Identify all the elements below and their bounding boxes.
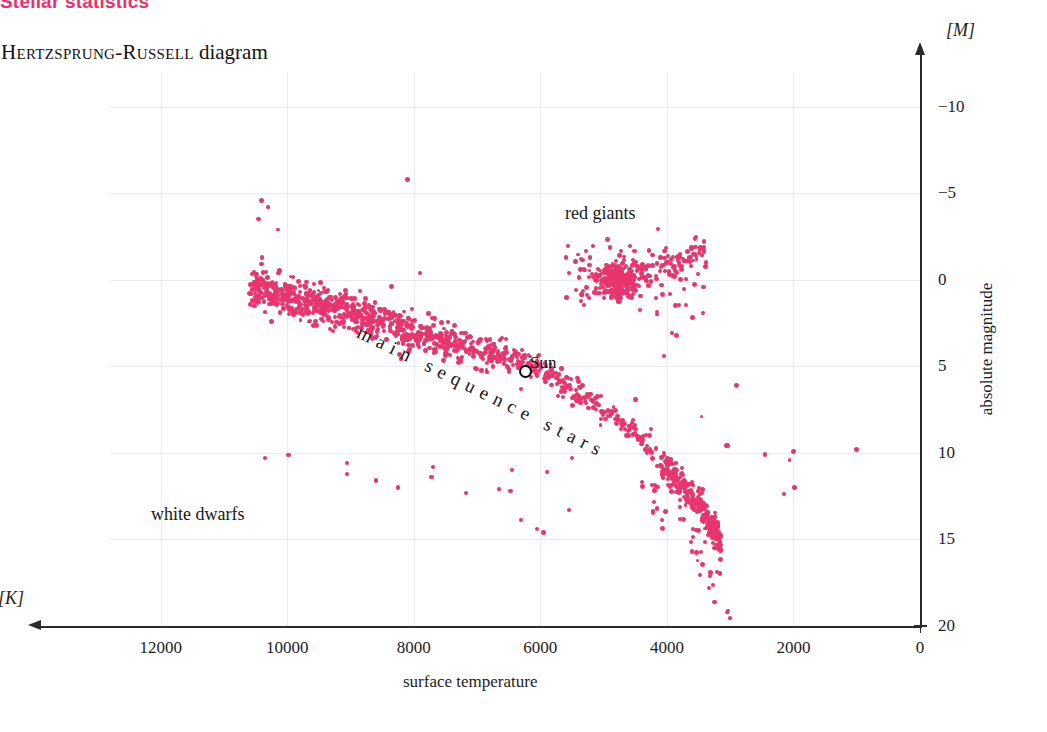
x-axis-arrow-icon (28, 620, 41, 630)
plot-area: 120001000080006000400020000−10−505101520… (110, 72, 920, 626)
x-tick-label: 2000 (776, 638, 810, 658)
y-axis-unit: [M] (946, 20, 975, 41)
x-tick-label: 10000 (266, 638, 309, 658)
y-tick-label: 15 (938, 529, 955, 549)
x-axis-unit-text: [K] (0, 588, 24, 608)
figure-canvas: Stellar statistics Hertzsprung-Russell d… (0, 0, 1047, 732)
figure-title-rest: diagram (199, 40, 268, 64)
x-axis-title: surface temperature (403, 672, 538, 692)
x-axis-line (40, 626, 922, 628)
y-axis-line (920, 54, 922, 626)
x-tick-label: 0 (916, 638, 925, 658)
annotation-white-dwarfs: white dwarfs (151, 504, 244, 525)
x-tick-label: 6000 (523, 638, 557, 658)
x-tick-label: 8000 (397, 638, 431, 658)
y-tick-label: 0 (938, 270, 947, 290)
y-tick-label: 5 (938, 356, 947, 376)
x-tick-label: 12000 (139, 638, 182, 658)
main-sequence-label-text: main sequence stars (354, 322, 610, 463)
x-axis-unit: [K] (0, 588, 24, 609)
y-tick-label: 10 (938, 443, 955, 463)
y-tick-label: −5 (938, 183, 956, 203)
figure-title-smallcaps: Hertzsprung-Russell (1, 40, 194, 64)
x-tick-label: 4000 (650, 638, 684, 658)
y-tick-label: −10 (938, 97, 965, 117)
section-kicker: Stellar statistics (0, 0, 149, 13)
y-axis-title: absolute magnitude (977, 283, 997, 416)
annotation-red-giants: red giants (565, 203, 635, 224)
annotation-sun: Sun (530, 353, 556, 373)
figure-title: Hertzsprung-Russell diagram (1, 40, 268, 65)
y-tick-label: 20 (938, 616, 955, 636)
y-axis-arrow-icon (915, 42, 925, 55)
main-sequence-label: main sequence stars (110, 72, 920, 626)
